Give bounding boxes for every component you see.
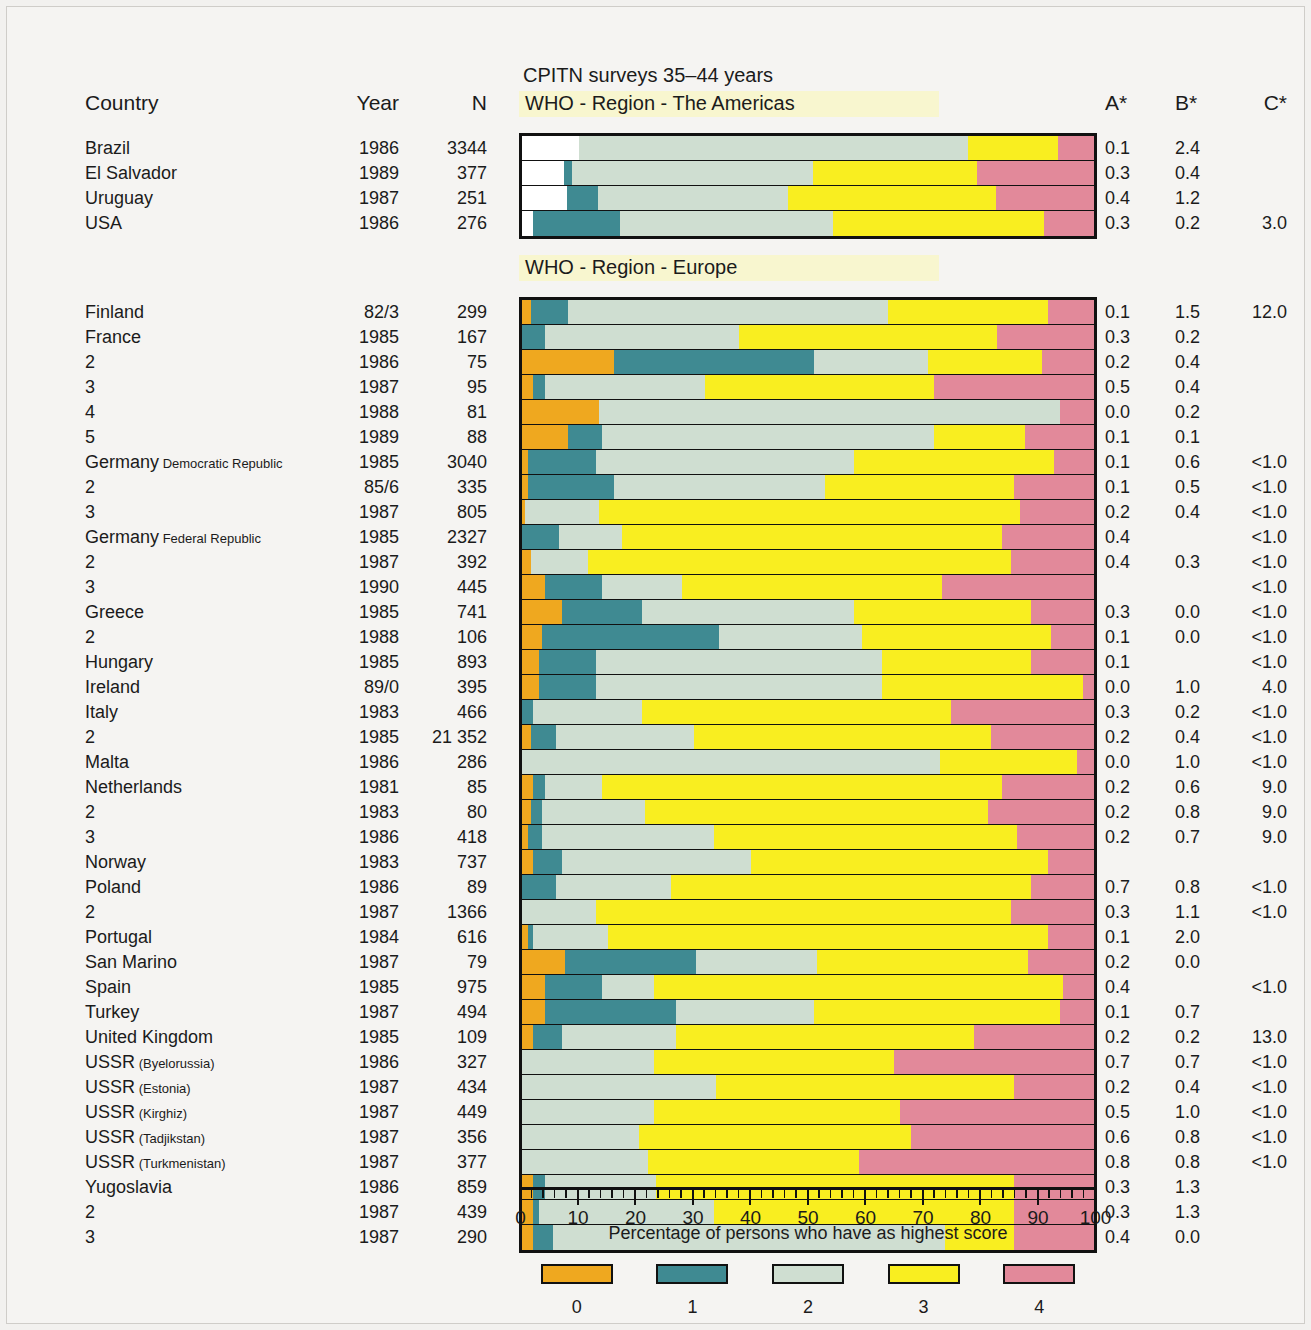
cell-country: USSR (Byelorussia) [85, 1050, 335, 1076]
cell-year: 1987 [337, 1200, 399, 1225]
axis-tick-major [979, 1190, 981, 1205]
bar-segment-score-1 [539, 650, 596, 674]
bar-segment-score-3 [682, 575, 942, 599]
bar-segment-score-4 [900, 1100, 1094, 1124]
axis-tick-major [922, 1190, 924, 1205]
bar-segment-score-0 [522, 975, 545, 999]
stacked-bar [522, 450, 1094, 475]
cell-b: 2.4 [1175, 136, 1209, 161]
bar-segment-blank [522, 136, 579, 160]
bar-segment-score-1 [528, 825, 542, 849]
cell-n: 327 [405, 1050, 487, 1075]
bar-segment-score-2 [579, 136, 968, 160]
bar-segment-score-3 [854, 450, 1054, 474]
bar-segment-score-2 [562, 850, 751, 874]
cell-c: <1.0 [1243, 1100, 1287, 1125]
axis-tick-minor [531, 1190, 533, 1198]
cell-c: <1.0 [1243, 450, 1287, 475]
column-header-c: C* [1243, 91, 1287, 115]
cell-year: 1987 [337, 375, 399, 400]
legend-label-score-4: 4 [1001, 1297, 1077, 1318]
bar-segment-score-2 [614, 475, 826, 499]
cell-year: 1988 [337, 400, 399, 425]
bar-segment-score-4 [1025, 425, 1094, 449]
bar-segment-score-0 [522, 425, 568, 449]
cell-year: 85/6 [337, 475, 399, 500]
cell-country: 3 [85, 375, 335, 400]
cell-year: 1984 [337, 925, 399, 950]
axis-tick-minor [956, 1190, 958, 1198]
axis-tick-minor [738, 1190, 740, 1198]
stacked-bar [522, 300, 1094, 325]
stacked-bar [522, 925, 1094, 950]
stacked-bar [522, 1075, 1094, 1100]
stacked-bar [522, 975, 1094, 1000]
cell-c: <1.0 [1243, 1075, 1287, 1100]
bar-segment-score-2 [596, 650, 882, 674]
axis-tick-minor [554, 1190, 556, 1198]
cell-n: 1366 [405, 900, 487, 925]
bar-segment-score-3 [596, 900, 1011, 924]
axis-tick-minor [646, 1190, 648, 1198]
cell-year: 1987 [337, 1125, 399, 1150]
bar-segment-score-3 [599, 500, 1019, 524]
cell-c: <1.0 [1243, 1125, 1287, 1150]
stacked-bar [522, 425, 1094, 450]
region-band-europe: WHO - Region - Europe [519, 255, 939, 281]
cell-year: 1989 [337, 425, 399, 450]
bar-segment-score-0 [522, 350, 614, 374]
cell-a: 0.3 [1105, 700, 1139, 725]
bar-segment-score-0 [522, 1025, 533, 1049]
cell-country: USA [85, 211, 335, 236]
cell-n: 377 [405, 1150, 487, 1175]
cell-b: 0.0 [1175, 625, 1209, 650]
cell-year: 1987 [337, 1000, 399, 1025]
cell-n: 395 [405, 675, 487, 700]
cell-year: 1985 [337, 600, 399, 625]
bar-segment-score-4 [988, 800, 1094, 824]
axis-tick-minor [726, 1190, 728, 1198]
cell-year: 1988 [337, 625, 399, 650]
bar-segment-score-3 [968, 136, 1058, 160]
bar-segment-score-2 [522, 900, 596, 924]
cell-a: 0.2 [1105, 1025, 1139, 1050]
cell-year: 1990 [337, 575, 399, 600]
cell-country: Norway [85, 850, 335, 875]
bar-segment-score-2 [522, 1150, 648, 1174]
stacked-bar [522, 400, 1094, 425]
bar-segment-score-0 [522, 625, 542, 649]
cell-country: Yugoslavia [85, 1175, 335, 1200]
country-subtitle: (Byelorussia) [135, 1056, 214, 1071]
bar-segment-score-2 [568, 300, 888, 324]
axis-tick-minor [991, 1190, 993, 1198]
axis-tick-major [1037, 1190, 1039, 1205]
axis-tick-minor [910, 1190, 912, 1198]
country-subtitle: (Turkmenistan) [135, 1156, 226, 1171]
cell-country: Hungary [85, 650, 335, 675]
axis-tick-minor [795, 1190, 797, 1198]
bar-segment-score-4 [859, 1150, 1094, 1174]
bar-segment-score-3 [716, 1075, 1013, 1099]
bar-segment-score-3 [833, 211, 1043, 236]
cell-n: 737 [405, 850, 487, 875]
cell-a: 0.1 [1105, 450, 1139, 475]
cell-a: 0.2 [1105, 950, 1139, 975]
cell-year: 82/3 [337, 300, 399, 325]
stacked-bar [522, 700, 1094, 725]
cell-year: 1987 [337, 900, 399, 925]
cell-c: 13.0 [1243, 1025, 1287, 1050]
cell-c: 4.0 [1243, 675, 1287, 700]
region-label: WHO - Region - The Americas [525, 92, 795, 115]
cell-b: 0.2 [1175, 400, 1209, 425]
chart-page: CPITN surveys 35–44 years Country Year N… [0, 0, 1311, 1330]
cell-n: 445 [405, 575, 487, 600]
bar-segment-score-4 [1002, 775, 1094, 799]
cell-n: 109 [405, 1025, 487, 1050]
cell-a: 0.3 [1105, 900, 1139, 925]
bar-segment-score-3 [608, 925, 1048, 949]
bar-segment-score-4 [1014, 1075, 1094, 1099]
cell-country: Portugal [85, 925, 335, 950]
axis-tick-label: 30 [682, 1207, 703, 1229]
bar-segment-score-4 [1031, 650, 1094, 674]
cell-b: 0.0 [1175, 1225, 1209, 1250]
